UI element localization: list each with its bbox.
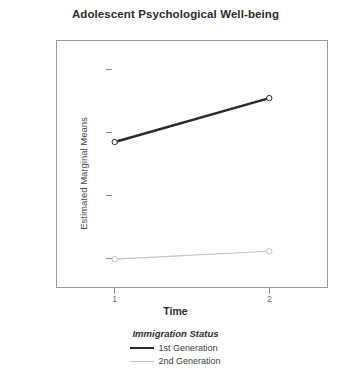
chart-title: Adolescent Psychological Well-being — [0, 8, 351, 20]
plot-area: Estimated Marginal Means 1.921.901.881.8… — [56, 40, 328, 288]
legend-item[interactable]: 2nd Generation — [130, 355, 220, 367]
legend-title: Immigration Status — [0, 328, 351, 339]
legend-label: 1st Generation — [158, 343, 217, 353]
y-tick-mark — [106, 132, 112, 133]
y-tick-mark — [106, 195, 112, 196]
legend-swatch-icon — [130, 347, 154, 349]
y-tick-mark — [106, 258, 112, 259]
y-axis-title: Estimated Marginal Means — [78, 79, 89, 269]
y-tick-mark — [106, 69, 112, 70]
legend-label: 2nd Generation — [158, 356, 220, 366]
legend-item[interactable]: 1st Generation — [130, 342, 220, 354]
chart-container: Adolescent Psychological Well-being Esti… — [0, 0, 351, 383]
x-tick-label: 2 — [249, 294, 289, 304]
x-axis-title: Time — [0, 305, 351, 317]
legend-swatch-icon — [130, 361, 154, 362]
x-tick-label: 1 — [95, 294, 135, 304]
legend: Immigration Status 1st Generation2nd Gen… — [0, 328, 351, 368]
legend-items: 1st Generation2nd Generation — [130, 342, 220, 368]
